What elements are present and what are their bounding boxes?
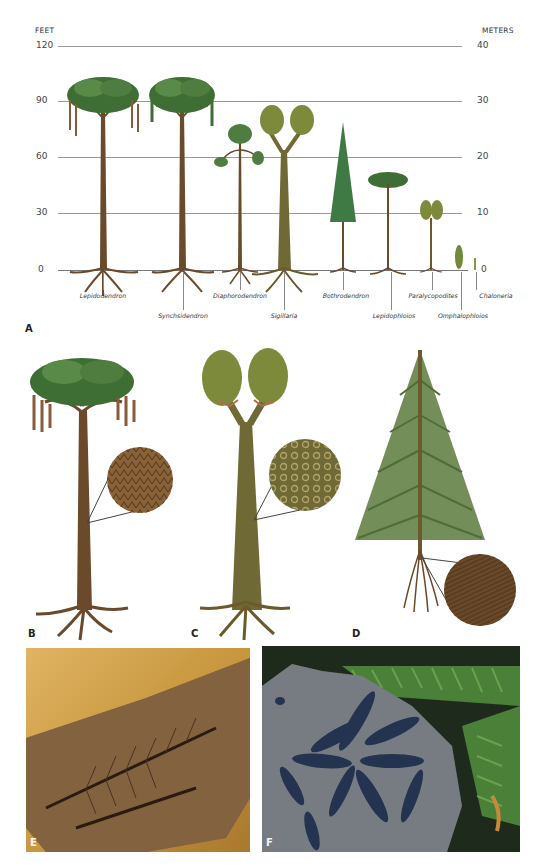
photo-e-fossil-frond: E	[26, 648, 250, 852]
label-lepidophloios: Lepidophloios	[373, 312, 416, 319]
tree-illustrations	[0, 0, 542, 300]
chaloneria-plant	[474, 258, 476, 270]
leader-synchsidendron	[183, 272, 184, 310]
leader-diaphorodendron	[240, 272, 241, 290]
leader-bothrodendron	[343, 272, 344, 290]
panel-letter-f: F	[266, 837, 273, 848]
leader-paralycopodites	[432, 272, 433, 290]
lepidophloios-tree	[368, 172, 408, 274]
conifer-illustration	[340, 340, 542, 640]
label-omphalophloios: Omphalophloios	[438, 312, 488, 319]
panel-letter-b: B	[28, 628, 36, 639]
label-chaloneria: Chaloneria	[479, 292, 512, 299]
label-paralycopodites: Paralycopodites	[408, 292, 457, 299]
synchsidendron-tree	[149, 77, 215, 292]
sigillaria-illustration	[190, 340, 350, 640]
leader-lepidodendron	[103, 272, 104, 290]
leader-omphalophloios	[461, 272, 462, 310]
leader-lepidophloios	[391, 272, 392, 310]
omphalophloios-plant	[455, 245, 463, 269]
panel-letter-e: E	[30, 837, 37, 848]
fossil-slab-f	[262, 646, 520, 852]
photo-f-fossil-whorl: F	[262, 646, 520, 852]
panel-letter-c: C	[191, 628, 198, 639]
sigillaria-tree	[252, 105, 318, 292]
label-diaphorodendron: Diaphorodendron	[213, 292, 267, 299]
lepidodendron-illustration	[0, 340, 200, 640]
diaphorodendron-tree	[214, 124, 264, 284]
label-bothrodendron: Bothrodendron	[323, 292, 370, 299]
panel-letter-d: D	[352, 628, 360, 639]
lepidodendron-tree	[67, 77, 139, 296]
label-lepidodendron: Lepidodendron	[80, 292, 126, 299]
paralycopodites-tree	[420, 200, 443, 272]
fossil-slab-e	[26, 648, 250, 852]
label-synchsidendron: Synchsidendron	[158, 312, 208, 319]
label-sigillaria: Sigillaria	[271, 312, 298, 319]
leader-sigillaria	[284, 272, 285, 310]
bothrodendron-tree	[330, 122, 356, 272]
leader-chaloneria	[476, 272, 477, 290]
panel-letter-a: A	[25, 323, 33, 334]
